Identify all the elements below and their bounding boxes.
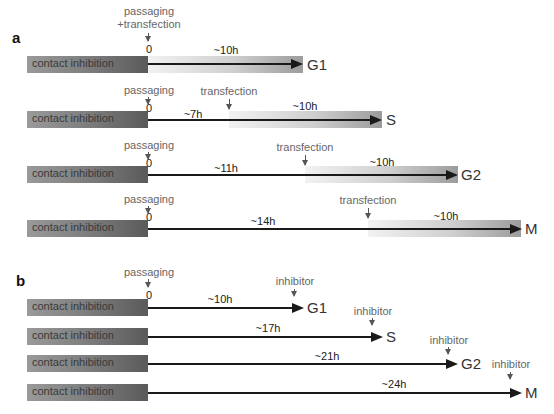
phase-label: M (525, 220, 538, 237)
inhibitor-label: inhibitor (430, 334, 469, 347)
panel-a-label: a (12, 29, 20, 46)
panel-b-label: b (16, 272, 25, 289)
passaging-label: passaging (124, 266, 174, 279)
time-zero: 0 (146, 43, 152, 55)
timeline (148, 307, 294, 309)
duration-label: ~24h (382, 378, 407, 390)
inhibitor-label: inhibitor (492, 358, 531, 371)
phase-label: S (386, 111, 396, 128)
transfection-label: transfection (201, 85, 258, 98)
down-arrow-icon (294, 289, 295, 296)
contact-inhibition-box: contact inhibition (27, 166, 148, 183)
down-arrow-icon (510, 372, 511, 379)
down-arrow-icon (305, 155, 306, 165)
duration-label: ~10h (370, 156, 395, 168)
duration-label: ~10h (208, 293, 233, 305)
timeline (148, 119, 372, 121)
contact-inhibition-box: contact inhibition (27, 220, 148, 237)
duration-label: ~10h (214, 44, 239, 56)
phase-label: G2 (461, 166, 481, 183)
passaging-transfection-label: passaging +transfection (117, 5, 180, 31)
down-arrow-icon (372, 318, 373, 325)
inhibitor-label: inhibitor (276, 275, 315, 288)
down-arrow-icon (148, 33, 149, 41)
down-arrow-icon (368, 208, 369, 218)
phase-label: G1 (307, 299, 327, 316)
inhibitor-label: inhibitor (354, 305, 393, 318)
duration-label: ~21h (315, 350, 340, 362)
contact-inhibition-box: contact inhibition (27, 328, 148, 345)
duration-label: ~10h (293, 100, 318, 112)
down-arrow-icon (448, 347, 449, 354)
phase-label: G1 (307, 56, 327, 73)
passaging-label: passaging (124, 139, 174, 152)
arrowhead-icon (292, 303, 304, 313)
timeline (148, 228, 512, 230)
pre-duration-label: ~11h (214, 162, 238, 174)
contact-inhibition-box: contact inhibition (27, 56, 148, 73)
contact-inhibition-box: contact inhibition (27, 111, 148, 128)
phase-label: G2 (461, 355, 481, 372)
timeline (148, 336, 373, 338)
phase-label: M (525, 384, 538, 401)
arrowhead-icon (446, 170, 458, 180)
timeline (148, 174, 448, 176)
passaging-label: passaging (124, 84, 174, 97)
timeline (148, 63, 293, 65)
pre-duration-label: ~7h (184, 108, 203, 120)
arrowhead-icon (371, 332, 383, 342)
arrowhead-icon (510, 388, 522, 398)
timeline (148, 363, 448, 365)
phase-label: S (386, 328, 396, 345)
contact-inhibition-box: contact inhibition (27, 355, 148, 372)
passaging-label: passaging (124, 193, 174, 206)
transfection-label: transfection (277, 141, 334, 154)
duration-label: ~17h (256, 322, 281, 334)
down-arrow-icon (148, 279, 149, 287)
duration-label: ~10h (434, 210, 459, 222)
arrowhead-icon (446, 359, 458, 369)
pre-duration-label: ~14h (251, 215, 276, 227)
timeline (148, 392, 512, 394)
down-arrow-icon (229, 99, 230, 109)
arrowhead-icon (370, 115, 382, 125)
arrowhead-icon (291, 59, 303, 69)
arrowhead-icon (510, 224, 522, 234)
contact-inhibition-box: contact inhibition (27, 384, 148, 401)
transfection-label: transfection (340, 194, 397, 207)
contact-inhibition-box: contact inhibition (27, 299, 148, 316)
